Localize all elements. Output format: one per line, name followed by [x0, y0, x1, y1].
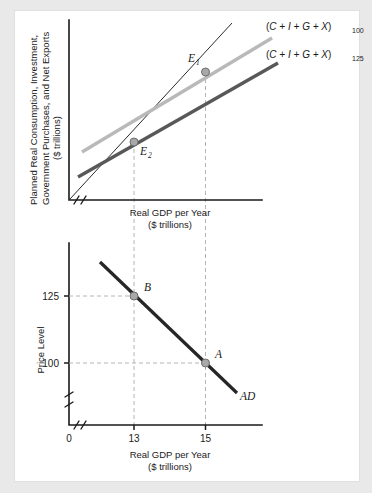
upper-x-axis-label-line1: Real GDP per Year [130, 207, 211, 218]
upper-y-axis-label-line2: Government Purchases, and Net Exports [40, 32, 51, 205]
aggregate-demand-curve [100, 262, 237, 393]
upper-y-axis-label: Planned Real Consumption, Investment, Go… [28, 32, 62, 205]
curve-label-100-sub: 100 [352, 27, 364, 34]
expenditure-curve-100 [82, 38, 272, 152]
lower-x-axis-label-line2: ($ trillions) [148, 461, 192, 472]
lower-x-axis-label-line1: Real GDP per Year [130, 449, 211, 460]
upper-y-axis-label-line1: Planned Real Consumption, Investment, [28, 35, 39, 205]
svg-text:(C + I + G + X): (C + I + G + X) [266, 49, 331, 60]
equilibrium-point-e1 [202, 68, 210, 76]
ad-point-b [130, 292, 138, 300]
equilibrium-label-e1-text: E [187, 52, 195, 64]
equilibrium-label-e1-sub: 1 [196, 58, 200, 67]
lower-x-tick-label-13: 13 [128, 433, 140, 444]
ad-point-label-a: A [214, 348, 223, 360]
upper-y-axis-label-line3: ($ trillions) [51, 116, 62, 160]
economics-figure: Planned Real Consumption, Investment, Go… [0, 0, 372, 493]
curve-label-125: (C + I + G + X) 125 [266, 49, 364, 62]
equilibrium-label-e2-sub: 2 [148, 151, 152, 160]
equilibrium-point-e2 [130, 138, 138, 146]
equilibrium-label-e2: E 2 [139, 145, 152, 160]
ad-curve-label: AD [239, 390, 256, 402]
upper-chart-panel: Planned Real Consumption, Investment, Go… [28, 20, 364, 230]
curve-label-125-sub: 125 [352, 55, 364, 62]
lower-axes [69, 243, 262, 425]
curve-label-100: (C + I + G + X) 100 [266, 21, 364, 34]
ad-point-label-b: B [144, 281, 151, 293]
expenditure-curve-125 [78, 63, 278, 177]
ad-point-a [202, 359, 210, 367]
lower-origin-label: 0 [66, 433, 72, 444]
curve-label-125-close: ) [328, 49, 331, 60]
curve-label-100-body: C + I + G + X [269, 21, 328, 32]
lower-y-tick-label-100: 100 [42, 358, 59, 369]
curve-label-100-close: ) [328, 21, 331, 32]
svg-text:(C + I + G + X): (C + I + G + X) [266, 21, 331, 32]
equilibrium-label-e2-text: E [139, 145, 147, 157]
lower-y-tick-label-125: 125 [42, 291, 59, 302]
upper-axes [69, 20, 262, 200]
lower-chart-panel: Price Level 125 100 13 15 0 [35, 243, 262, 472]
lower-x-tick-label-15: 15 [200, 433, 212, 444]
upper-x-axis-label-line2: ($ trillions) [148, 219, 192, 230]
curve-label-125-body: C + I + G + X [269, 49, 328, 60]
